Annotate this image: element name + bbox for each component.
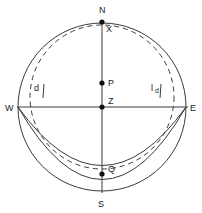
label-east: E xyxy=(190,103,196,113)
label-south: S xyxy=(98,199,104,209)
label-x: X xyxy=(106,24,112,34)
point-x xyxy=(99,19,104,24)
point-q xyxy=(99,171,104,176)
point-z xyxy=(99,104,104,109)
label-right-d: d xyxy=(155,87,159,94)
label-right-l: l xyxy=(151,83,153,93)
label-north: N xyxy=(99,5,106,15)
tick-right-ld xyxy=(160,84,161,98)
label-west: W xyxy=(5,103,14,113)
label-z: Z xyxy=(108,96,114,106)
label-q: Q xyxy=(108,164,115,174)
tick-left-d xyxy=(43,84,44,98)
label-p: P xyxy=(108,78,114,88)
celestial-sphere-figure: N X P Z Q S W E d l d xyxy=(0,0,202,213)
point-p xyxy=(99,80,104,85)
label-left-d: d xyxy=(34,83,39,93)
